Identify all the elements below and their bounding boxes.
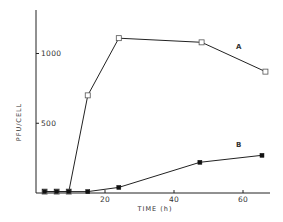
x-axis-title: TIME (h) (137, 205, 173, 213)
filled-square-marker (55, 190, 59, 194)
open-square-marker (263, 69, 268, 74)
filled-square-marker (86, 190, 90, 194)
y-ticks: 5001000 (36, 49, 61, 128)
open-square-marker (85, 93, 90, 98)
axes (36, 10, 270, 193)
series-label-a: A (236, 43, 242, 51)
y-axis-title: PFU/CELL (15, 103, 23, 142)
x-tick-label: 60 (238, 195, 248, 204)
series-label-b: B (236, 141, 241, 149)
filled-square-marker (198, 160, 202, 164)
series-line (45, 38, 266, 191)
series-a (42, 36, 268, 194)
filled-square-marker (67, 190, 71, 194)
x-tick-label: 20 (100, 195, 110, 204)
open-square-marker (199, 40, 204, 45)
y-tick-label: 500 (41, 119, 56, 128)
x-ticks: 204060 (100, 190, 248, 204)
series-b (43, 153, 264, 193)
series-group (42, 36, 268, 194)
open-square-marker (116, 36, 121, 41)
line-chart: 5001000 204060 PFU/CELL TIME (h) AB (0, 0, 283, 222)
filled-square-marker (43, 190, 47, 194)
filled-square-marker (260, 153, 264, 157)
filled-square-marker (117, 185, 121, 189)
series-line (45, 155, 262, 191)
x-tick-label: 40 (169, 195, 179, 204)
y-tick-label: 1000 (41, 49, 61, 58)
